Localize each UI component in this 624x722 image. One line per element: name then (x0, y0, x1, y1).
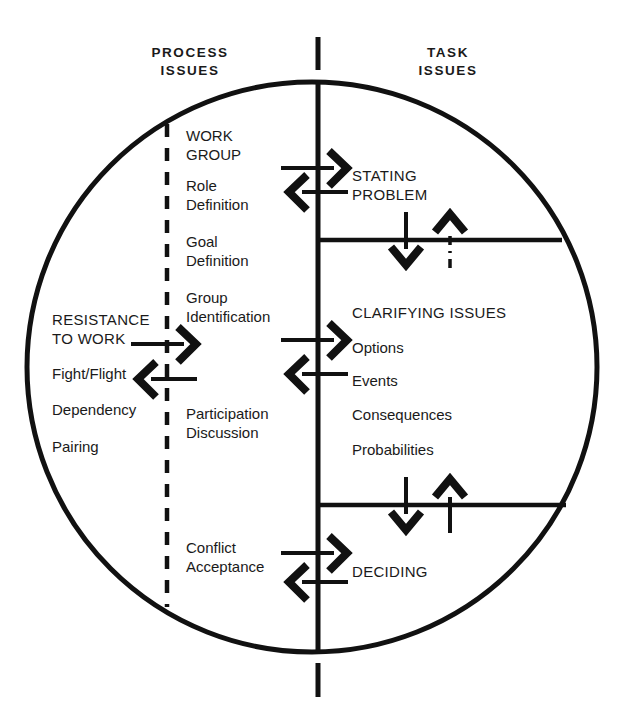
label-stating-problem: STATING PROBLEM (352, 166, 427, 204)
label-pairing: Pairing (52, 437, 99, 456)
label-fight-flight: Fight/Flight (52, 364, 126, 383)
arrow-pair-clarifying-issues (281, 323, 348, 392)
arrow-down-head-upper-divider (391, 247, 421, 265)
arrow-up-head-lower-divider (435, 479, 465, 497)
label-role-definition: Role Definition (186, 176, 249, 214)
diagram-canvas: PROCESS ISSUES TASK ISSUES WORK GROUP Ro… (0, 0, 624, 722)
label-conflict-acceptance: Conflict Acceptance (186, 538, 264, 576)
arrow-down-head-lower-divider (391, 512, 421, 530)
label-deciding: DECIDING (352, 562, 428, 581)
label-events: Events (352, 371, 398, 390)
label-clarifying-issues: CLARIFYING ISSUES (352, 303, 506, 322)
arrow-pair-deciding (281, 536, 348, 600)
process-task-issues-diagram (0, 0, 624, 722)
arrow-pair-stating-problem (281, 151, 348, 210)
header-process-issues: PROCESS ISSUES (120, 44, 260, 80)
label-options: Options (352, 338, 404, 357)
label-group-identification: Group Identification (186, 288, 270, 326)
label-consequences: Consequences (352, 405, 452, 424)
header-task-issues: TASK ISSUES (378, 44, 518, 80)
label-work-group: WORK GROUP (186, 126, 241, 164)
label-dependency: Dependency (52, 400, 136, 419)
label-goal-definition: Goal Definition (186, 232, 249, 270)
label-participation-discussion: Participation Discussion (186, 404, 269, 442)
label-resistance-to-work: RESISTANCE TO WORK (52, 310, 150, 348)
label-probabilities: Probabilities (352, 440, 434, 459)
arrow-up-head-upper-divider (435, 214, 465, 232)
